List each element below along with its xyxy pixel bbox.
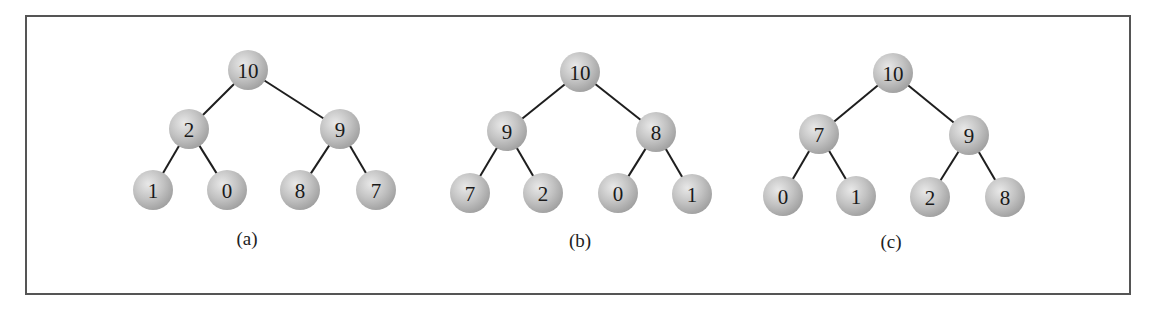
tree-node: 0 [598,173,638,213]
node-label: 2 [925,186,936,210]
tree-edge [517,147,534,176]
node-label: 0 [778,185,789,209]
node-label: 0 [613,182,624,206]
node-label: 1 [148,179,159,203]
tree-node: 9 [487,111,527,151]
tree-node: 1 [836,176,876,216]
tree-edge [908,85,955,123]
tree-b: 10987201(b) [450,52,712,252]
tree-node: 7 [356,170,396,210]
tree-node: 2 [169,109,209,149]
tree-node: 7 [450,173,490,213]
tree-node: 8 [280,170,320,210]
node-label: 8 [295,179,306,203]
node-label: 8 [651,121,662,145]
node-label: 9 [502,120,513,144]
node-label: 2 [184,118,195,142]
tree-edge [793,150,810,179]
tree-node: 0 [763,176,803,216]
tree-edge [666,148,683,177]
node-label: 7 [465,182,476,206]
tree-edge [979,151,996,180]
tree-node: 2 [523,173,563,213]
tree-edge [264,80,324,118]
node-label: 0 [222,179,233,203]
node-label: 10 [238,59,259,83]
tree-node: 0 [207,170,247,210]
node-label: 1 [687,183,698,207]
node-label: 10 [883,62,904,86]
tree-edge [199,145,217,174]
tree-edge [202,83,234,115]
node-label: 7 [814,123,825,147]
node-label: 9 [964,124,975,148]
tree-diagram: 10291087(a)10987201(b)10790128(c) [0,0,1168,317]
tree-node: 9 [949,115,989,155]
subfigure-caption: (c) [880,231,901,253]
tree-node: 7 [799,114,839,154]
tree-edge [350,145,367,173]
node-label: 2 [538,182,549,206]
tree-edge [834,85,879,122]
node-label: 8 [1000,186,1011,210]
subfigure-caption: (a) [236,228,257,250]
tree-node: 1 [672,174,712,214]
tree-c: 10790128(c) [763,53,1025,253]
tree-node: 8 [985,177,1025,217]
tree-a: 10291087(a) [133,50,396,250]
node-label: 1 [851,185,862,209]
tree-edge [310,145,329,174]
tree-node: 10 [228,50,268,90]
tree-edge [628,148,646,177]
tree-edge [940,151,959,181]
tree-node: 1 [133,170,173,210]
tree-node: 8 [636,112,676,152]
node-label: 10 [570,61,591,85]
node-label: 7 [371,179,382,203]
node-label: 9 [335,118,346,142]
tree-edge [522,84,565,119]
subfigure-caption: (b) [569,230,591,252]
tree-edge [480,147,498,176]
tree-node: 9 [320,109,360,149]
tree-edge [595,84,641,120]
tree-node: 2 [910,177,950,217]
tree-node: 10 [560,52,600,92]
tree-edge [829,150,847,179]
tree-edge [163,145,180,173]
tree-node: 10 [873,53,913,93]
